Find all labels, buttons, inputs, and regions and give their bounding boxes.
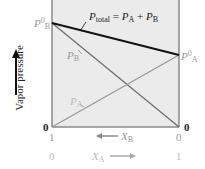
vapor-pressure-plot xyxy=(0,0,205,169)
total-label: Ptotal = PA + PB xyxy=(89,11,158,24)
pa-line-label: PA xyxy=(70,96,83,109)
xb-arrow-icon xyxy=(96,133,102,139)
pb0-label: P0B xyxy=(34,17,50,31)
xb-label: XB xyxy=(121,131,133,144)
xb-left-tick: 1 xyxy=(49,132,55,143)
left-zero: 0 xyxy=(43,122,49,133)
xa-arrow-icon xyxy=(130,153,136,159)
y-axis-label: Vapor pressure xyxy=(13,45,25,111)
xa-left-tick: 0 xyxy=(49,151,55,162)
xa-right-tick: 1 xyxy=(176,151,182,162)
right-zero: 0 xyxy=(184,122,190,133)
pb-line-label: PB xyxy=(67,50,79,63)
pa0-label: P0A xyxy=(181,50,198,64)
xa-label: XA xyxy=(92,151,105,164)
xb-right-tick: 0 xyxy=(176,132,182,143)
